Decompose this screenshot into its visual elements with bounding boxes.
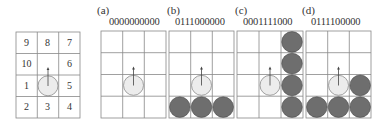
sensor-label-3: 3 bbox=[37, 102, 58, 112]
sensor-label-5: 5 bbox=[59, 81, 80, 91]
obstacle-icon bbox=[307, 97, 328, 118]
robot-b bbox=[192, 67, 212, 96]
panel-label-d: (d) bbox=[302, 5, 315, 16]
panel-code-c: 0001111000 bbox=[243, 16, 292, 27]
panel-label-c: (c) bbox=[235, 5, 247, 16]
sensor-label-2: 2 bbox=[16, 102, 37, 112]
robot-d bbox=[329, 67, 349, 96]
robot-a bbox=[124, 67, 144, 96]
sensor-label-9: 9 bbox=[16, 38, 37, 48]
obstacle-icon bbox=[282, 97, 303, 118]
obstacle-icon bbox=[213, 97, 234, 118]
obstacle-icon bbox=[328, 97, 349, 118]
sensor-label-4: 4 bbox=[59, 102, 80, 112]
sensor-label-1: 1 bbox=[16, 81, 37, 91]
obstacle-icon bbox=[282, 32, 303, 53]
legend-robot bbox=[38, 67, 58, 96]
sensor-label-7: 7 bbox=[59, 38, 80, 48]
panel-code-b: 0111000000 bbox=[175, 16, 225, 27]
panel-label-a: (a) bbox=[97, 5, 109, 16]
sensor-label-10: 10 bbox=[16, 59, 37, 69]
obstacle-icon bbox=[191, 97, 212, 118]
sensor-label-8: 8 bbox=[37, 38, 58, 48]
robot-c bbox=[260, 67, 280, 96]
obstacle-icon bbox=[350, 75, 371, 96]
obstacle-icon bbox=[282, 75, 303, 96]
panel-code-a: 0000000000 bbox=[109, 16, 160, 27]
obstacle-icon bbox=[350, 97, 371, 118]
obstacles-b bbox=[170, 97, 234, 118]
panel-label-b: (b) bbox=[167, 5, 180, 16]
panel-code-d: 0111100000 bbox=[311, 16, 360, 27]
obstacle-icon bbox=[282, 53, 303, 74]
sensor-label-6: 6 bbox=[59, 59, 80, 69]
obstacle-icon bbox=[170, 97, 191, 118]
